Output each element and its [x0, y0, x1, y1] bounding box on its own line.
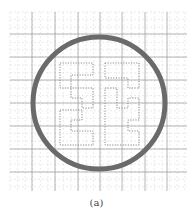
left-dotted-glyph [60, 63, 93, 145]
dotted-glyph-pattern [60, 63, 139, 145]
diagram-figure [0, 0, 193, 216]
figure-caption: (a) [0, 197, 193, 208]
